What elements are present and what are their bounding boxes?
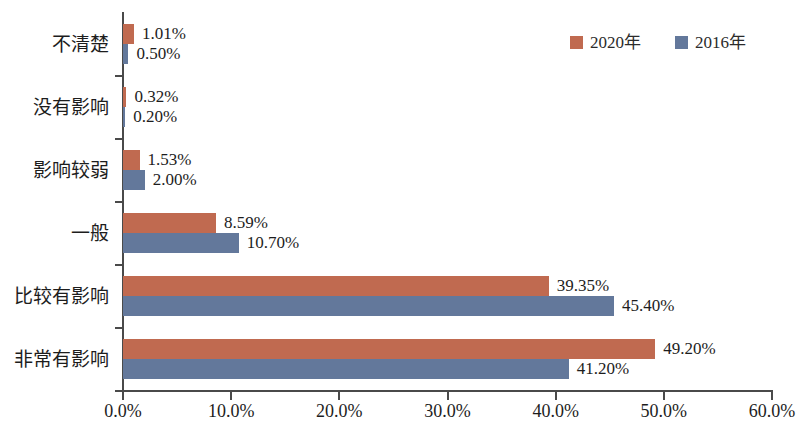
x-axis-label: 40.0% — [532, 402, 579, 420]
x-axis-tick — [447, 392, 449, 400]
bar-value-label: 49.20% — [663, 340, 715, 357]
bar-value-label: 0.50% — [136, 45, 180, 62]
x-axis-tick — [122, 392, 124, 400]
x-axis-tick — [230, 392, 232, 400]
bar-row: 0.20% — [123, 107, 772, 127]
category-band: 没有影响0.32%0.20% — [123, 75, 772, 138]
bar[interactable] — [123, 150, 140, 170]
x-axis-tick — [555, 392, 557, 400]
y-axis-tick — [115, 327, 123, 329]
bar[interactable] — [123, 87, 126, 107]
bar[interactable] — [123, 276, 549, 296]
bar-row: 8.59% — [123, 213, 772, 233]
bar[interactable] — [123, 24, 134, 44]
category-label: 比较有影响 — [14, 286, 109, 305]
category-label: 非常有影响 — [14, 349, 109, 368]
bar-value-label: 0.32% — [134, 88, 178, 105]
bar-row: 1.01% — [123, 24, 772, 44]
bar[interactable] — [123, 359, 569, 379]
category-band: 比较有影响39.35%45.40% — [123, 264, 772, 327]
y-axis-tick — [115, 201, 123, 203]
bar[interactable] — [123, 170, 145, 190]
bar[interactable] — [123, 44, 128, 64]
x-axis-label: 50.0% — [641, 402, 688, 420]
bar-row: 39.35% — [123, 276, 772, 296]
bar-row: 49.20% — [123, 339, 772, 359]
y-axis-tick — [115, 264, 123, 266]
bar-row: 45.40% — [123, 296, 772, 316]
bar[interactable] — [123, 107, 125, 127]
bar-value-label: 0.20% — [133, 108, 177, 125]
bar-row: 41.20% — [123, 359, 772, 379]
bar-row: 0.32% — [123, 87, 772, 107]
bar-value-label: 45.40% — [622, 297, 674, 314]
x-axis-label: 10.0% — [208, 402, 255, 420]
category-band: 影响较弱1.53%2.00% — [123, 138, 772, 201]
plot-area: 不清楚1.01%0.50%没有影响0.32%0.20%影响较弱1.53%2.00… — [123, 12, 772, 390]
y-axis-tick — [115, 75, 123, 77]
category-band: 一般8.59%10.70% — [123, 201, 772, 264]
bar-value-label: 2.00% — [153, 171, 197, 188]
bar[interactable] — [123, 213, 216, 233]
category-band: 不清楚1.01%0.50% — [123, 12, 772, 75]
bar-value-label: 41.20% — [577, 360, 629, 377]
category-label: 影响较弱 — [33, 160, 109, 179]
bar-value-label: 1.53% — [148, 151, 192, 168]
x-axis-tick — [771, 392, 773, 400]
category-label: 没有影响 — [33, 97, 109, 116]
category-label: 不清楚 — [52, 34, 109, 53]
category-band: 非常有影响49.20%41.20% — [123, 327, 772, 390]
x-axis-label: 20.0% — [316, 402, 363, 420]
bar-chart: 2020年 2016年 不清楚1.01%0.50%没有影响0.32%0.20%影… — [0, 0, 805, 426]
bar-value-label: 10.70% — [247, 234, 299, 251]
y-axis-tick — [115, 138, 123, 140]
bar[interactable] — [123, 339, 655, 359]
bar[interactable] — [123, 233, 239, 253]
category-label: 一般 — [71, 223, 109, 242]
bar-row: 0.50% — [123, 44, 772, 64]
bar-row: 10.70% — [123, 233, 772, 253]
x-axis-label: 30.0% — [424, 402, 471, 420]
bar-value-label: 8.59% — [224, 214, 268, 231]
bar-row: 2.00% — [123, 170, 772, 190]
bar[interactable] — [123, 296, 614, 316]
x-axis-label: 0.0% — [104, 402, 142, 420]
bar-value-label: 1.01% — [142, 25, 186, 42]
x-axis-tick — [663, 392, 665, 400]
bar-value-label: 39.35% — [557, 277, 609, 294]
x-axis-tick — [338, 392, 340, 400]
x-axis-label: 60.0% — [749, 402, 796, 420]
bar-row: 1.53% — [123, 150, 772, 170]
